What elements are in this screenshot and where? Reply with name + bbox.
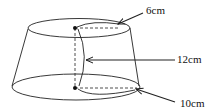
top-label-arrow — [118, 13, 143, 24]
frustum-diagram: 6cm 12cm 10cm — [0, 0, 209, 112]
top-center-dot — [73, 26, 77, 30]
bottom-length-label: 10cm — [180, 97, 205, 109]
top-arc-path — [77, 23, 119, 27]
top-length-label: 6cm — [146, 4, 165, 16]
bottom-arc-path — [78, 89, 135, 94]
middle-length-label: 12cm — [177, 53, 202, 65]
bottom-label-arrow — [136, 89, 175, 102]
right-slant-edge — [130, 28, 139, 86]
top-base-ellipse — [28, 19, 130, 38]
bottom-center-dot — [73, 86, 77, 90]
left-slant-edge — [12, 29, 28, 86]
